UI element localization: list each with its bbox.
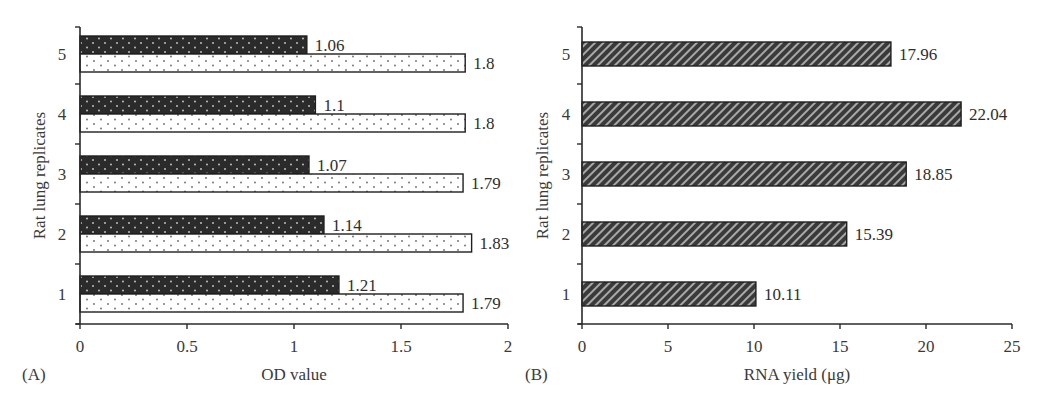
- x-axis-title: RNA yield (μg): [744, 365, 850, 384]
- category-label: 2: [58, 225, 67, 244]
- category-label: 5: [58, 45, 67, 64]
- category-label: 3: [562, 165, 571, 184]
- y-axis-title: Rat lung replicates: [30, 112, 49, 239]
- category-label: 1: [562, 285, 571, 304]
- bar-5-RNA yield: [582, 42, 891, 66]
- x-tick-label: 10: [746, 337, 763, 356]
- x-tick-label: 0: [76, 337, 85, 356]
- category-label: 4: [562, 105, 571, 124]
- x-tick-label: 5: [664, 337, 673, 356]
- y-axis-title: Rat lung replicates: [533, 112, 552, 239]
- value-label: 1.8: [473, 114, 494, 133]
- category-label: 1: [58, 285, 67, 304]
- bar-1-series-light: [80, 294, 463, 312]
- value-label: 1.83: [480, 234, 510, 253]
- bar-1-series-dark: [80, 276, 339, 294]
- value-label: 22.04: [969, 105, 1008, 124]
- value-label: 1.8: [473, 54, 494, 73]
- value-label: 1.21: [347, 276, 377, 295]
- x-tick-label: 20: [918, 337, 935, 356]
- value-label: 10.11: [764, 285, 802, 304]
- x-axis-title: OD value: [261, 365, 327, 384]
- category-label: 5: [562, 45, 571, 64]
- value-label: 1.79: [471, 174, 501, 193]
- value-label: 1.1: [323, 96, 344, 115]
- x-tick-label: 2: [504, 337, 513, 356]
- panel-a-chart: 1.211.7911.141.8321.071.7931.11.841.061.…: [22, 27, 512, 384]
- value-label: 1.06: [315, 36, 345, 55]
- value-label: 1.14: [332, 216, 362, 235]
- value-label: 1.79: [471, 294, 501, 313]
- bar-2-RNA yield: [582, 222, 847, 246]
- value-label: 17.96: [899, 45, 937, 64]
- x-tick-label: 1.5: [390, 337, 411, 356]
- bar-4-series-dark: [80, 96, 315, 114]
- bar-3-RNA yield: [582, 162, 906, 186]
- figure: 1.211.7911.141.8321.071.7931.11.841.061.…: [0, 0, 1046, 407]
- value-label: 15.39: [855, 225, 893, 244]
- x-tick-label: 15: [832, 337, 849, 356]
- category-label: 2: [562, 225, 571, 244]
- bar-4-RNA yield: [582, 102, 961, 126]
- x-tick-label: 1: [290, 337, 299, 356]
- bar-2-series-dark: [80, 216, 324, 234]
- value-label: 1.07: [317, 156, 347, 175]
- bar-3-series-dark: [80, 156, 309, 174]
- bar-2-series-light: [80, 234, 472, 252]
- bar-3-series-light: [80, 174, 463, 192]
- panel-label: (A): [22, 365, 46, 384]
- bar-5-series-light: [80, 54, 465, 72]
- bar-1-RNA yield: [582, 282, 756, 306]
- category-label: 3: [58, 165, 67, 184]
- panel-b-chart: 10.11115.39218.85322.04417.9650510152025…: [525, 27, 1021, 384]
- value-label: 18.85: [914, 165, 952, 184]
- bar-5-series-dark: [80, 36, 307, 54]
- x-tick-label: 25: [1004, 337, 1021, 356]
- bar-4-series-light: [80, 114, 465, 132]
- category-label: 4: [58, 105, 67, 124]
- x-tick-label: 0: [578, 337, 587, 356]
- panel-label: (B): [525, 365, 548, 384]
- x-tick-label: 0.5: [176, 337, 197, 356]
